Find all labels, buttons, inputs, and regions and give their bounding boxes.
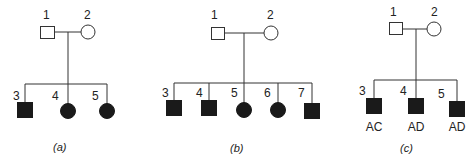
panel-caption: (c) xyxy=(400,142,413,154)
individual-label: 4 xyxy=(196,86,203,100)
pedigree-figure: 1 2 3 4 5 (a) 1 2 3 4 5 6 7 xyxy=(0,0,475,160)
individual-label: 3 xyxy=(359,84,366,98)
male-affected-icon xyxy=(367,99,382,114)
genotype-label: AD xyxy=(408,120,425,134)
male-affected-icon xyxy=(450,102,465,117)
female-unaffected-icon xyxy=(264,26,278,40)
panel-caption: (a) xyxy=(53,141,67,153)
individual-label: 2 xyxy=(267,8,274,22)
individual-label: 1 xyxy=(390,5,397,19)
male-affected-icon xyxy=(167,101,182,116)
female-affected-icon xyxy=(61,104,76,119)
panel-caption: (b) xyxy=(230,142,244,154)
pedigree-panel-a: 1 2 3 4 5 (a) xyxy=(13,8,115,153)
male-unaffected-icon xyxy=(41,27,55,39)
female-unaffected-icon xyxy=(427,22,441,36)
individual-label: 1 xyxy=(43,8,50,22)
female-affected-icon xyxy=(100,104,115,119)
individual-label: 1 xyxy=(211,8,218,22)
individual-label: 5 xyxy=(438,87,445,101)
male-affected-icon xyxy=(409,99,424,114)
individual-label: 4 xyxy=(400,84,407,98)
female-affected-icon xyxy=(237,103,252,118)
individual-label: 6 xyxy=(264,86,271,100)
male-affected-icon xyxy=(305,104,320,119)
individual-label: 4 xyxy=(52,89,59,103)
male-affected-icon xyxy=(202,101,217,116)
individual-label: 3 xyxy=(162,86,169,100)
pedigree-panel-c: 1 2 3 4 5 AC AD AD (c) xyxy=(359,5,466,154)
male-unaffected-icon xyxy=(212,28,225,40)
genotype-label: AD xyxy=(449,120,466,134)
pedigree-panel-b: 1 2 3 4 5 6 7 (b) xyxy=(162,8,320,154)
genotype-label: AC xyxy=(366,120,383,134)
female-affected-icon xyxy=(271,103,286,118)
male-unaffected-icon xyxy=(390,23,403,35)
individual-label: 5 xyxy=(92,89,99,103)
male-affected-icon xyxy=(18,103,33,118)
individual-label: 2 xyxy=(84,8,91,22)
female-unaffected-icon xyxy=(81,25,95,39)
individual-label: 2 xyxy=(431,5,438,19)
individual-label: 3 xyxy=(13,89,20,103)
individual-label: 5 xyxy=(231,86,238,100)
individual-label: 7 xyxy=(298,86,305,100)
